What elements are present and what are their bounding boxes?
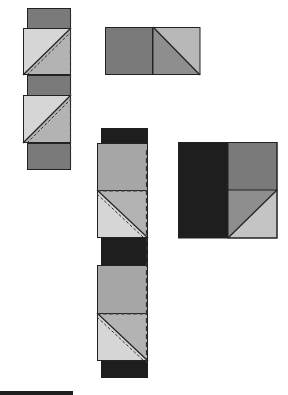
left-strip-dark-band-3 <box>27 143 71 170</box>
middle-strip-square-2 <box>97 265 148 314</box>
top-right-unit <box>105 27 201 76</box>
middle-strip-black-band-2 <box>101 238 148 266</box>
bottom-left-bar <box>0 391 73 395</box>
middle-strip-black-band-3 <box>101 361 148 378</box>
left-strip-hst-block-2 <box>23 95 72 144</box>
middle-strip-square-1 <box>97 143 148 191</box>
right-unit <box>178 142 278 239</box>
left-strip-hst-block-1 <box>23 28 72 76</box>
middle-strip-hst-block-1 <box>97 190 149 239</box>
middle-strip-hst-block-2 <box>97 313 149 362</box>
left-strip-dark-band-2 <box>27 75 71 96</box>
middle-strip-dashed-seam <box>145 150 148 365</box>
left-strip-dashed-seam <box>69 14 72 170</box>
left-strip-dark-band-1 <box>27 8 71 30</box>
